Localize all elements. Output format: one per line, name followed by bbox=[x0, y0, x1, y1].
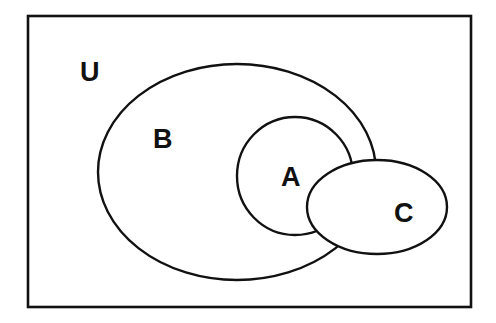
venn-diagram: U B A C bbox=[0, 0, 496, 323]
set-b-label: B bbox=[153, 124, 173, 154]
universe-label: U bbox=[80, 57, 100, 87]
set-c-label: C bbox=[394, 198, 414, 228]
set-a-label: A bbox=[281, 162, 301, 192]
set-c-ellipse bbox=[307, 160, 447, 254]
